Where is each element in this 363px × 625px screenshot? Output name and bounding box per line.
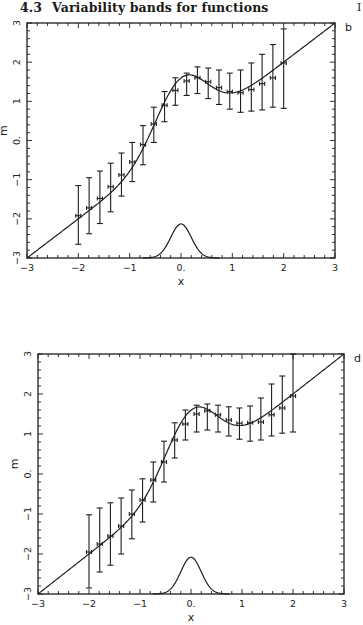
x-tick-label: 2: [290, 598, 296, 609]
y-tick-label: −1: [11, 173, 22, 187]
panel-label: b: [345, 21, 352, 34]
x-tick-label: 3: [341, 598, 347, 609]
figure-variability-bands: −3−2−10.123−3−2−10.123xmb −3−2−10.123−3−…: [0, 0, 363, 625]
y-axis-title: m: [0, 125, 10, 136]
error-bar: [140, 479, 146, 522]
error-bar: [107, 503, 113, 565]
error-bar: [226, 407, 232, 436]
x-tick-label: −3: [20, 262, 34, 273]
error-bar: [140, 126, 146, 165]
error-bar: [118, 153, 124, 196]
density-curve: [143, 224, 220, 258]
y-tick-label: −2: [22, 547, 33, 561]
error-bar: [247, 406, 253, 441]
error-bar: [118, 498, 124, 554]
chart-panel-b: −3−2−10.123−3−2−10.123xmb: [0, 20, 352, 288]
x-tick-label: 3: [332, 262, 338, 273]
error-bar: [205, 68, 211, 99]
y-axis-title: m: [8, 459, 21, 470]
x-tick-label: −1: [133, 598, 147, 609]
error-bar: [162, 92, 168, 122]
error-bar: [281, 29, 287, 109]
y-tick-label: 1: [11, 98, 22, 104]
x-tick-label: −2: [71, 262, 85, 273]
error-bar: [129, 490, 135, 539]
y-tick-label: 2: [22, 391, 33, 397]
x-tick-label: 0.: [186, 598, 195, 609]
y-tick-label: 2: [11, 59, 22, 65]
error-bar: [97, 508, 103, 572]
error-bar: [259, 54, 265, 110]
error-bar: [216, 70, 222, 104]
error-bar: [194, 67, 200, 94]
error-bars: [75, 29, 286, 244]
regression-curve: [27, 23, 335, 258]
y-tick-label: 3: [22, 351, 33, 357]
y-tick-label: −1: [22, 507, 33, 521]
error-bar: [151, 107, 157, 142]
y-tick-label: 1: [22, 431, 33, 437]
panel-label: d: [354, 352, 361, 365]
y-tick-label: 0.: [22, 469, 33, 478]
error-bar: [236, 408, 242, 439]
x-axis-title: x: [178, 275, 185, 288]
x-tick-label: 1: [229, 262, 235, 273]
error-bar: [270, 45, 276, 108]
error-bar: [161, 441, 167, 482]
error-bar: [238, 70, 244, 112]
y-tick-label: 0.: [11, 136, 22, 145]
error-bar: [75, 186, 81, 245]
x-tick-label: −2: [82, 598, 96, 609]
regression-curve: [38, 354, 344, 594]
error-bar: [172, 423, 178, 458]
chart-panel-d: −3−2−10.123−3−2−10.123xmd: [8, 351, 361, 624]
error-bar: [97, 171, 103, 223]
y-tick-label: −2: [11, 212, 22, 226]
x-tick-label: 0.: [176, 262, 185, 273]
error-bar: [194, 405, 200, 432]
y-tick-label: −3: [11, 251, 22, 265]
error-bar: [182, 410, 188, 440]
density-curve: [153, 557, 230, 594]
error-bar: [86, 178, 92, 234]
error-bars: [86, 354, 296, 588]
x-tick-label: −3: [31, 598, 45, 609]
y-tick-label: −3: [22, 587, 33, 601]
x-tick-label: 1: [239, 598, 245, 609]
x-tick-label: 2: [281, 262, 287, 273]
error-bar: [227, 73, 233, 109]
error-bar: [150, 462, 156, 502]
x-tick-label: −1: [123, 262, 137, 273]
error-bar: [86, 515, 92, 588]
y-tick-label: 3: [11, 20, 22, 26]
error-bar: [269, 384, 275, 436]
error-bar: [108, 163, 114, 212]
x-axis-title: x: [188, 611, 195, 624]
error-bar: [129, 142, 135, 181]
